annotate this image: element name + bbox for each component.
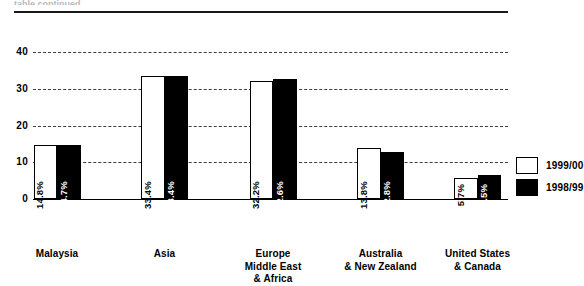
bar-value-label: 13.8%	[359, 181, 369, 209]
bar-0-series-1[interactable]: 14.7%	[57, 145, 81, 199]
category-label-line: United States	[418, 248, 538, 261]
bar-value-label: 6.5%	[479, 184, 489, 206]
bar-1-series-1[interactable]: 33.4%	[165, 76, 189, 199]
category-label-0: Malaysia	[0, 248, 117, 261]
title-divider-rule	[14, 11, 508, 13]
y-tick-label-40: 40	[6, 47, 28, 57]
bar-3-series-0[interactable]: 13.8%	[357, 148, 381, 199]
bar-value-label: 12.8%	[382, 181, 392, 209]
y-tick-label-0: 0	[6, 194, 28, 204]
bar-chart-plot-area: 010203040 14.8%33.4%32.2%13.8%5.7%14.7%3…	[0, 40, 584, 205]
bar-value-label: 33.4%	[143, 181, 153, 209]
bar-2-series-0[interactable]: 32.2%	[250, 81, 274, 199]
gridline-40	[33, 52, 508, 53]
legend-label: 1998/99	[546, 182, 584, 193]
bar-value-label: 32.6%	[275, 181, 285, 209]
legend-label: 1999/00	[546, 160, 584, 171]
category-label-line: Europe	[213, 248, 333, 261]
x-axis-baseline	[33, 199, 508, 200]
y-tick-label-30: 30	[6, 84, 28, 94]
category-label-line: Middle East	[213, 261, 333, 274]
bar-2-series-1[interactable]: 32.6%	[273, 79, 297, 199]
category-label-1: Asia	[105, 248, 225, 261]
bar-value-label: 5.7%	[456, 184, 466, 206]
cut-off-heading-remnant: table continued	[14, 0, 92, 5]
bar-value-label: 14.8%	[35, 181, 45, 209]
bar-4-series-1[interactable]: 6.5%	[478, 175, 502, 199]
bar-1-series-0[interactable]: 33.4%	[141, 76, 165, 199]
category-label-line: & Canada	[418, 261, 538, 274]
bar-3-series-1[interactable]: 12.8%	[381, 152, 405, 199]
y-tick-label-10: 10	[6, 157, 28, 167]
bar-value-label: 14.7%	[59, 181, 69, 209]
category-label-line: & Africa	[213, 273, 333, 286]
category-label-line: Malaysia	[0, 248, 117, 261]
bar-0-series-0[interactable]: 14.8%	[34, 145, 58, 199]
legend-item-1[interactable]: 1998/99	[516, 178, 584, 200]
legend-swatch-dark	[516, 179, 538, 196]
chart-legend: 1999/001998/99	[516, 156, 584, 200]
category-label-line: Asia	[105, 248, 225, 261]
legend-swatch-light	[516, 157, 538, 174]
category-label-4: United States& Canada	[418, 248, 538, 273]
bar-value-label: 33.4%	[166, 181, 176, 209]
y-tick-label-20: 20	[6, 121, 28, 131]
category-label-2: EuropeMiddle East& Africa	[213, 248, 333, 286]
bar-value-label: 32.2%	[251, 181, 261, 209]
bar-4-series-0[interactable]: 5.7%	[454, 178, 478, 199]
legend-item-0[interactable]: 1999/00	[516, 156, 584, 178]
